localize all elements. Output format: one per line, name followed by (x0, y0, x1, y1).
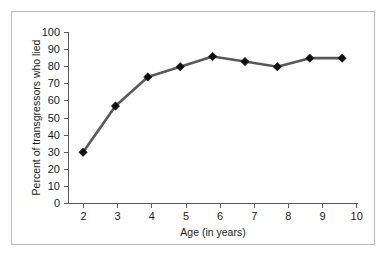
y-tick-label: 30 (48, 146, 60, 158)
x-tick-label: 5 (183, 210, 189, 222)
data-series-group (79, 52, 346, 156)
y-tick-label: 90 (48, 43, 60, 55)
data-point-marker (208, 52, 216, 60)
y-axis-title: Percent of transgressors who lied (30, 39, 42, 195)
y-tick-label: 10 (48, 180, 60, 192)
x-tick-label: 4 (149, 210, 155, 222)
x-tick-label: 3 (115, 210, 121, 222)
x-tick-label: 10 (351, 210, 363, 222)
data-point-marker (273, 63, 281, 71)
series-line-percent-lied (83, 56, 342, 152)
data-point-marker (338, 54, 346, 62)
y-tick-label: 60 (48, 94, 60, 106)
y-tick-label: 80 (48, 60, 60, 72)
y-tick-label: 20 (48, 163, 60, 175)
x-tick-label: 2 (80, 210, 86, 222)
chart-plot-area: 100 90 80 70 60 50 40 30 20 10 0 2 3 4 5… (0, 0, 387, 259)
y-axis-ticks (64, 33, 69, 204)
x-tick-label: 8 (285, 210, 291, 222)
x-tick-label: 7 (251, 210, 257, 222)
y-tick-label: 70 (48, 77, 60, 89)
x-axis-ticks (84, 204, 357, 209)
x-tick-label: 9 (320, 210, 326, 222)
data-point-marker (241, 57, 249, 65)
x-axis-title: Age (in years) (180, 226, 245, 238)
y-tick-label: 0 (54, 197, 60, 209)
y-tick-label: 100 (42, 26, 60, 38)
y-tick-label: 40 (48, 129, 60, 141)
x-tick-label: 6 (217, 210, 223, 222)
chart-figure: 100 90 80 70 60 50 40 30 20 10 0 2 3 4 5… (0, 0, 387, 259)
data-point-marker (306, 54, 314, 62)
y-tick-label: 50 (48, 112, 60, 124)
data-point-marker (176, 63, 184, 71)
